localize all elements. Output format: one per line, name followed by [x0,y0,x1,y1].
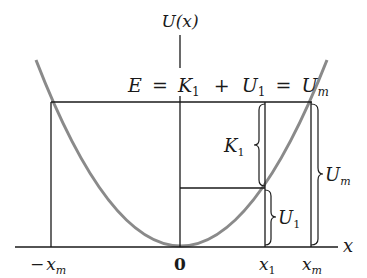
energy-equation: E = K1 + U1 = Um [127,74,329,100]
tick-xm: xm [302,254,322,277]
u1-label: U1 [278,207,300,231]
tick-x1: x1 [259,254,276,277]
k1-label: K1 [223,135,244,159]
potential-energy-diagram: U(x) E = K1 + U1 = Um K1 U1 Um x −xm 0 x… [0,0,367,278]
y-axis-label: U(x) [161,11,198,31]
u1-brace [265,190,276,245]
um-brace [311,104,323,245]
tick-zero: 0 [174,254,186,274]
k1-brace [254,104,265,186]
x-axis-label: x [343,235,353,256]
tick-neg-xm: −xm [30,254,66,277]
um-label: Um [325,164,351,188]
